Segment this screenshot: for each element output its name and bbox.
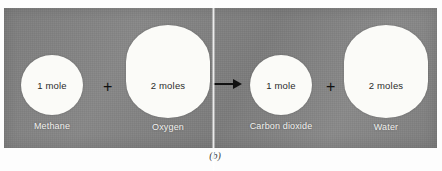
plus-icon-products: + bbox=[326, 79, 335, 95]
methane-label: Methane bbox=[34, 121, 70, 131]
oxygen-label: Oxygen bbox=[152, 122, 184, 132]
arrow-shaft bbox=[213, 83, 235, 85]
species-water: 2 moles Water bbox=[344, 25, 428, 118]
species-carbon-dioxide: 1 mole Carbon dioxide bbox=[250, 55, 312, 115]
plus-icon-reactants: + bbox=[103, 79, 112, 95]
carbon-dioxide-shape: 1 mole bbox=[250, 55, 312, 115]
figure-page: 1 mole Methane + 2 moles Oxygen 1 mole C… bbox=[0, 0, 442, 171]
oxygen-amount: 2 moles bbox=[126, 80, 210, 91]
carbon-dioxide-amount: 1 mole bbox=[250, 80, 312, 91]
species-oxygen: 2 moles Oxygen bbox=[126, 25, 210, 118]
water-shape: 2 moles bbox=[344, 25, 428, 118]
methane-shape: 1 mole bbox=[21, 55, 83, 115]
oxygen-shape: 2 moles bbox=[126, 25, 210, 118]
species-methane: 1 mole Methane bbox=[21, 55, 83, 115]
arrow-right-icon bbox=[213, 79, 243, 89]
water-amount: 2 moles bbox=[344, 80, 428, 91]
figure-caption: (b) bbox=[0, 150, 430, 161]
carbon-dioxide-label: Carbon dioxide bbox=[250, 121, 313, 131]
arrow-head bbox=[233, 79, 242, 89]
water-label: Water bbox=[374, 122, 398, 132]
methane-amount: 1 mole bbox=[21, 80, 83, 91]
